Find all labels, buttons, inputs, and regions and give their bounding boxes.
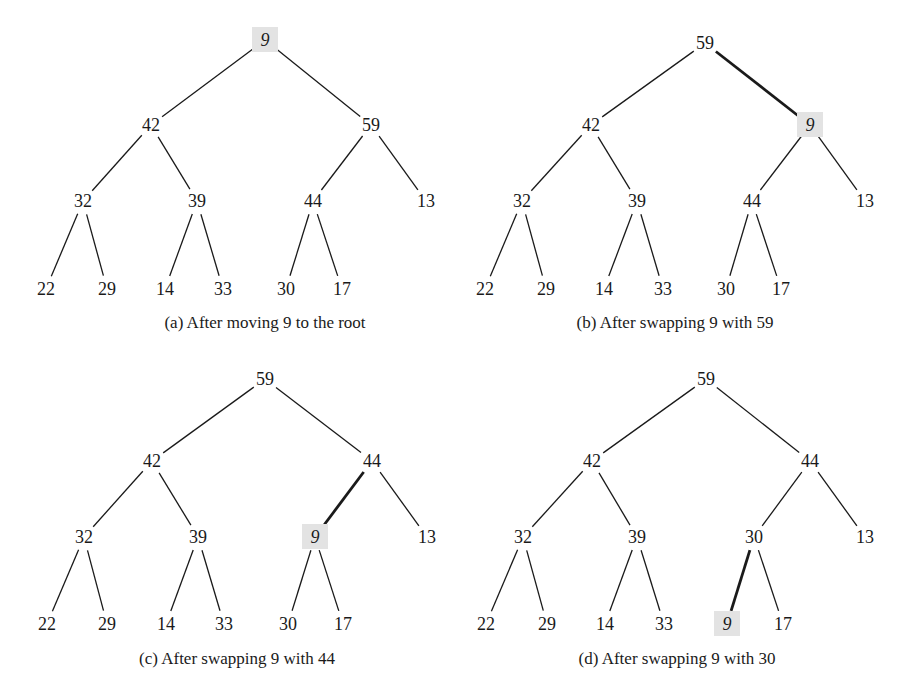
node-value: 30 [717, 279, 735, 299]
tree-edge [526, 214, 543, 275]
tree-node: 14 [157, 614, 175, 634]
tree-edge [276, 387, 361, 452]
swap-edge [323, 472, 363, 526]
swap-edge [716, 52, 799, 117]
node-value: 29 [98, 614, 116, 634]
panel-c: 5942443239913222914333017(c) After swapp… [38, 369, 436, 668]
tree-edge [641, 214, 659, 276]
tree-node: 30 [277, 279, 295, 299]
node-value: 29 [537, 279, 555, 299]
tree-node: 14 [156, 279, 174, 299]
node-value: 9 [311, 527, 320, 547]
tree-node: 22 [477, 614, 495, 634]
tree-node: 32 [513, 191, 531, 211]
tree-node: 29 [98, 279, 116, 299]
panel-d: 5942443239301322291433917(d) After swapp… [477, 369, 874, 668]
node-value: 59 [256, 369, 274, 389]
swap-edge [731, 550, 750, 611]
tree-node: 30 [745, 527, 763, 547]
node-value: 33 [215, 614, 233, 634]
tree-node: 39 [628, 527, 646, 547]
heap-sift-down-diagram: 9425932394413222914333017(a) After movin… [0, 0, 905, 696]
tree-edge [603, 387, 695, 453]
node-value: 59 [697, 369, 715, 389]
node-value: 59 [362, 115, 380, 135]
tree-edge [159, 473, 191, 525]
tree-node: 33 [214, 279, 232, 299]
tree-node: 22 [37, 279, 55, 299]
tree-node: 13 [417, 191, 435, 211]
node-value: 39 [628, 527, 646, 547]
tree-node: 44 [801, 451, 819, 471]
tree-edge [717, 388, 799, 453]
node-value: 29 [538, 614, 556, 634]
node-value: 9 [261, 30, 270, 50]
node-value: 14 [596, 614, 614, 634]
node-value: 22 [37, 279, 55, 299]
tree-node: 42 [142, 115, 160, 135]
tree-node: 32 [75, 527, 93, 547]
tree-edge [818, 136, 857, 190]
tree-edge [88, 550, 104, 610]
tree-edge [170, 214, 193, 276]
node-value: 13 [856, 527, 874, 547]
tree-edge [760, 136, 801, 190]
panel-a: 9425932394413222914333017(a) After movin… [37, 27, 435, 332]
tree-edge [730, 214, 748, 276]
tree-edge [641, 550, 660, 611]
tree-edge [319, 550, 339, 611]
tree-node: 59 [362, 115, 380, 135]
tree-edge [290, 214, 309, 276]
tree-node: 13 [856, 527, 874, 547]
node-value: 32 [75, 527, 93, 547]
node-value: 44 [801, 451, 819, 471]
tree-edge [379, 136, 418, 190]
tree-node: 17 [333, 279, 351, 299]
node-value: 17 [334, 614, 352, 634]
panel-b: 5942932394413222914333017(b) After swapp… [476, 33, 874, 332]
tree-edge [491, 550, 517, 612]
tree-node: 32 [74, 191, 92, 211]
tree-edge [292, 550, 311, 611]
tree-edge [321, 136, 362, 190]
tree-edge [201, 214, 219, 276]
tree-node: 30 [279, 614, 297, 634]
node-value: 9 [806, 115, 815, 135]
highlighted-node: 9 [252, 27, 278, 52]
tree-node: 39 [628, 191, 646, 211]
node-value: 9 [723, 614, 732, 634]
node-value: 22 [38, 614, 56, 634]
node-value: 13 [418, 527, 436, 547]
highlighted-node: 9 [797, 112, 823, 137]
tree-edge [599, 473, 630, 525]
tree-edge [380, 472, 419, 526]
tree-node: 42 [583, 451, 601, 471]
node-value: 32 [513, 191, 531, 211]
tree-node: 39 [189, 527, 207, 547]
node-value: 13 [417, 191, 435, 211]
node-value: 42 [143, 451, 161, 471]
tree-edge [531, 135, 581, 191]
node-value: 17 [774, 614, 792, 634]
tree-edge [490, 214, 516, 277]
panel-caption: (c) After swapping 9 with 44 [139, 649, 335, 668]
tree-node: 59 [696, 33, 714, 53]
tree-node: 39 [188, 191, 206, 211]
node-value: 32 [514, 527, 532, 547]
node-value: 22 [476, 279, 494, 299]
tree-node: 33 [654, 279, 672, 299]
node-value: 44 [363, 451, 381, 471]
tree-node: 44 [304, 191, 322, 211]
tree-node: 17 [334, 614, 352, 634]
tree-edge [758, 550, 778, 611]
tree-node: 59 [697, 369, 715, 389]
node-value: 13 [856, 191, 874, 211]
panel-caption: (b) After swapping 9 with 59 [577, 313, 774, 332]
node-value: 17 [772, 279, 790, 299]
tree-node: 13 [856, 191, 874, 211]
tree-edge [51, 214, 77, 277]
tree-node: 14 [595, 279, 613, 299]
tree-edge [92, 135, 142, 190]
node-value: 14 [595, 279, 613, 299]
tree-edge [317, 214, 337, 276]
